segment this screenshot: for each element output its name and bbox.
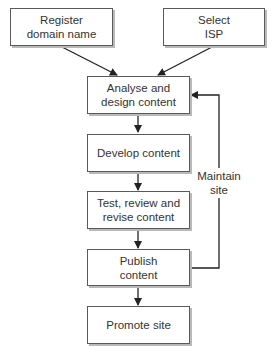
node-test-review: Test, review and revise content [87,191,190,229]
node-promote-site: Promote site [87,306,190,344]
node-test-review-label: Test, review and revise content [97,196,180,224]
node-publish-content-label: Publish content [120,254,158,282]
node-analyse-design-label: Analyse and design content [101,81,176,109]
node-analyse-design: Analyse and design content [87,76,190,114]
node-select-isp: Select ISP [163,8,265,46]
arrow-register-to-analyse [62,47,117,75]
node-publish-content: Publish content [87,249,190,286]
node-develop-content-label: Develop content [97,146,180,160]
node-register-domain-label: Register domain name [27,13,97,41]
node-select-isp-label: Select ISP [198,13,230,41]
node-develop-content: Develop content [87,134,190,172]
node-register-domain: Register domain name [10,8,113,46]
arrow-isp-to-analyse [158,47,212,75]
maintain-site-label: Maintain site [196,168,242,198]
flowchart-canvas: Register domain name Select ISP Analyse … [0,0,276,356]
node-promote-site-label: Promote site [106,318,171,332]
